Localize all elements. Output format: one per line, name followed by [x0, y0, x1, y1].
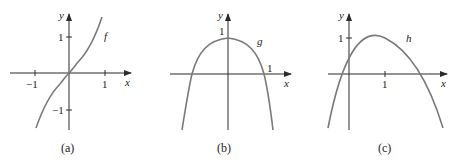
tick-label: 1: [58, 31, 64, 43]
function-label: g: [257, 35, 263, 47]
panel-b: 1 1 x y g (b): [170, 9, 291, 155]
function-label: h: [406, 32, 412, 44]
y-label: y: [217, 9, 223, 21]
caption: (b): [217, 141, 231, 155]
tick-label: 1: [382, 78, 388, 90]
y-label: y: [338, 9, 344, 21]
tick-label: 1: [267, 62, 273, 74]
panel-c: 1 1 x y h (c): [328, 9, 447, 155]
tick-label: −1: [26, 78, 38, 90]
tick-label: −1: [52, 104, 64, 116]
x-label: x: [124, 76, 130, 88]
x-label: x: [440, 77, 446, 89]
y-label: y: [58, 9, 64, 21]
x-label: x: [283, 77, 289, 89]
tick-label: 1: [338, 32, 344, 44]
function-label: f: [104, 30, 109, 42]
figure: −1 1 1 −1 x y f (a) 1 1 x y g (b) 1 1 x …: [0, 0, 461, 167]
tick-label: 1: [219, 25, 225, 37]
caption: (a): [61, 141, 74, 155]
panel-a: −1 1 1 −1 x y f (a): [10, 9, 131, 155]
caption: (c): [378, 141, 391, 155]
tick-label: 1: [102, 78, 108, 90]
